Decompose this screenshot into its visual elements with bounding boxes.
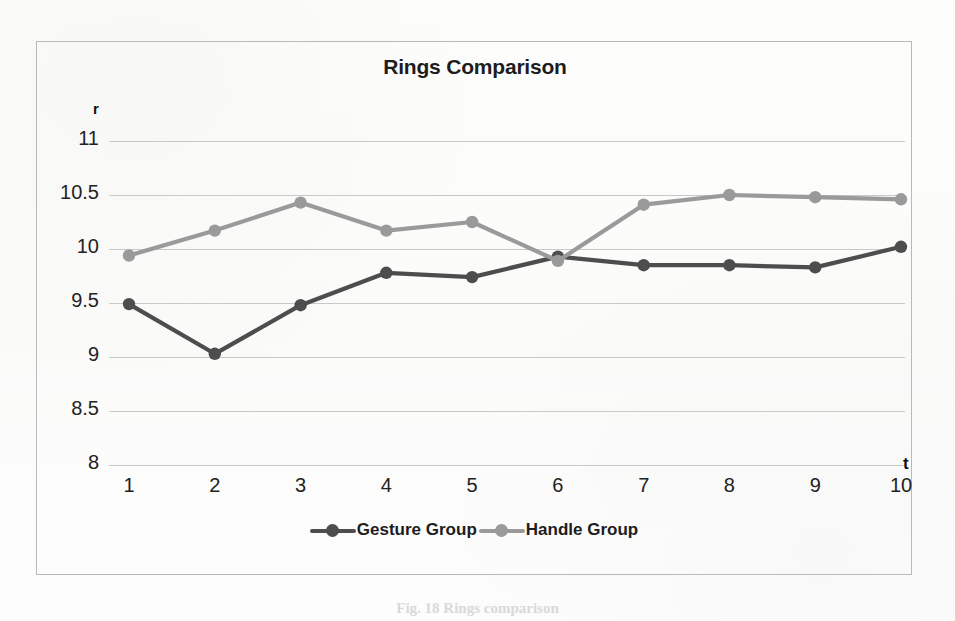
series-marker: [466, 271, 478, 283]
series-marker: [552, 255, 564, 267]
series-marker: [809, 261, 821, 273]
legend-entry[interactable]: Handle Group: [479, 520, 640, 540]
series-marker: [209, 348, 221, 360]
series-marker: [209, 224, 221, 236]
series-marker: [466, 216, 478, 228]
figure-frame: Rings Comparison 1110.5109.598.58 r t 12…: [36, 41, 912, 575]
plot-area: 1110.5109.598.58 r t 12345678910: [37, 42, 913, 576]
series-marker: [723, 259, 735, 271]
series-marker: [638, 199, 650, 211]
series-marker: [294, 196, 306, 208]
series-marker: [895, 193, 907, 205]
legend-marker-icon: [479, 523, 525, 537]
series-marker: [895, 241, 907, 253]
chart-legend: Gesture GroupHandle Group: [37, 520, 913, 540]
series-plot: [37, 42, 913, 576]
legend-marker-icon: [310, 523, 356, 537]
legend-label: Gesture Group: [356, 520, 479, 540]
series-marker: [809, 191, 821, 203]
legend-label: Handle Group: [525, 520, 640, 540]
series-marker: [380, 224, 392, 236]
series-marker: [294, 299, 306, 311]
series-marker: [380, 267, 392, 279]
series-line: [129, 247, 901, 354]
series-line: [129, 195, 901, 261]
series-marker: [123, 298, 135, 310]
series-marker: [638, 259, 650, 271]
series-marker: [723, 189, 735, 201]
series-marker: [123, 249, 135, 261]
figure-caption: Fig. 18 Rings comparison: [0, 600, 955, 617]
legend-entry[interactable]: Gesture Group: [310, 520, 479, 540]
